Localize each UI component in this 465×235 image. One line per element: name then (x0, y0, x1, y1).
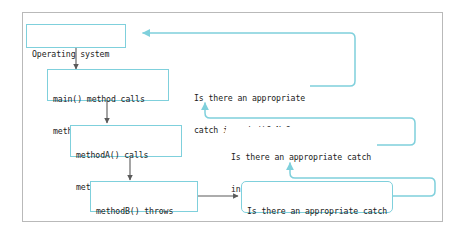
node-catch-main-line-1: Is there an appropriate (194, 93, 304, 104)
node-methodb-throws-line-1: methodB() throws (96, 206, 192, 217)
node-catch-main: Is there an appropriate catch in main()?… (188, 68, 310, 100)
exception-propagation-diagram: Operating system main() method calls met… (0, 0, 465, 235)
node-methoda-calls: methodA() calls methodB() (70, 125, 182, 157)
node-catch-methoda-line-1: Is there an appropriate catch (231, 152, 371, 163)
node-main-calls: main() method calls methodA() (47, 69, 169, 101)
node-methoda-calls-line-1: methodA() calls (76, 150, 176, 161)
node-catch-methodb: Is there an appropriate catch in methodB… (241, 181, 393, 213)
node-main-calls-line-1: main() method calls (53, 94, 163, 105)
node-operating-system: Operating system (26, 24, 126, 48)
node-catch-methodb-line-1: Is there an appropriate catch (247, 206, 387, 217)
node-catch-methoda: Is there an appropriate catch in methodA… (225, 127, 377, 159)
node-operating-system-line-1: Operating system (32, 49, 120, 60)
node-methodb-throws: methodB() throws an exception (90, 181, 198, 212)
